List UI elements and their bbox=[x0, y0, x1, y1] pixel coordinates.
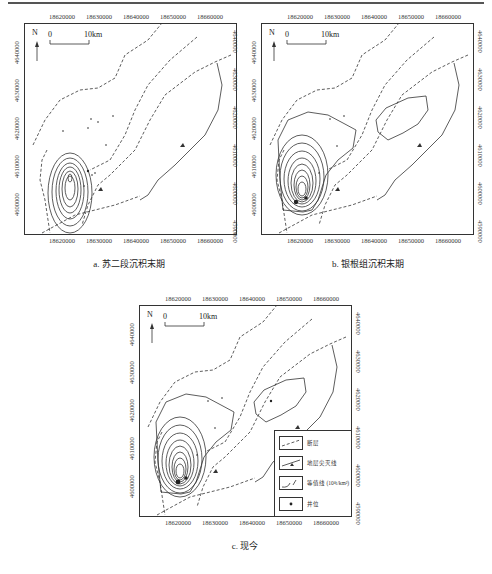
map-drawing-c bbox=[116, 282, 376, 574]
legend-item-contour: 等值线 (10⁴t/km²) bbox=[279, 476, 349, 490]
scale-start: 0 bbox=[163, 312, 167, 321]
legend-item-pinchout: 地层尖灭线 bbox=[279, 456, 337, 470]
well-dot-icon bbox=[279, 497, 303, 511]
panel-b: 18620000 18630000 18640000 18650000 1866… bbox=[238, 0, 492, 290]
pinchout-line-icon bbox=[279, 456, 303, 470]
scale-start: 0 bbox=[285, 30, 289, 39]
panel-caption-b: b. 银根组沉积末期 bbox=[332, 257, 404, 270]
dashed-line-icon bbox=[279, 436, 303, 450]
panel-caption-a: a. 苏二段沉积末期 bbox=[93, 257, 165, 270]
panel-caption-c: c. 现今 bbox=[232, 539, 259, 552]
legend-item-well: 井位 bbox=[279, 497, 319, 511]
scale-end: 10km bbox=[84, 30, 102, 39]
scale-end: 10km bbox=[321, 30, 339, 39]
north-label: N bbox=[147, 310, 153, 319]
contour-line-icon bbox=[279, 476, 303, 490]
map-drawing-b bbox=[238, 0, 492, 290]
scale-end: 10km bbox=[199, 312, 217, 321]
panel-c: 18620000 18630000 18640000 18650000 1866… bbox=[116, 282, 376, 574]
scale-start: 0 bbox=[48, 30, 52, 39]
north-label: N bbox=[32, 28, 38, 37]
legend-item-fault: 断层 bbox=[279, 436, 319, 450]
panel-a: 18620000 18630000 18640000 18650000 1866… bbox=[0, 0, 246, 290]
map-drawing-a bbox=[0, 0, 246, 290]
legend: 断层 地层尖灭线 等值线 (10⁴t/km²) 井位 bbox=[274, 430, 352, 517]
north-label: N bbox=[269, 28, 275, 37]
